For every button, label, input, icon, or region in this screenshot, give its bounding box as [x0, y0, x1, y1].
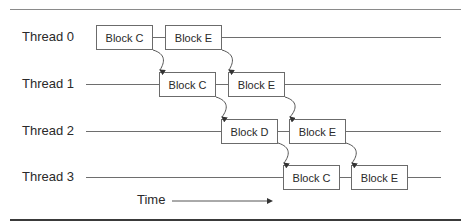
bottom-rule	[10, 219, 461, 221]
arrow-t0c-to-t1c	[153, 50, 163, 70]
arrow-t1e-to-t2e	[285, 97, 295, 117]
time-arrow-head	[267, 198, 273, 204]
dependency-arrows	[0, 0, 468, 223]
time-axis-label: Time	[137, 193, 165, 207]
arrow-t1c-to-t2d	[216, 97, 226, 117]
arrow-t2e-to-t3e	[346, 143, 356, 163]
thread-timeline-diagram: Thread 0 Block C Block E Thread 1 Block …	[0, 0, 468, 223]
arrow-t2d-to-t3c	[278, 143, 288, 163]
arrow-t0e-to-t1e	[222, 50, 232, 70]
